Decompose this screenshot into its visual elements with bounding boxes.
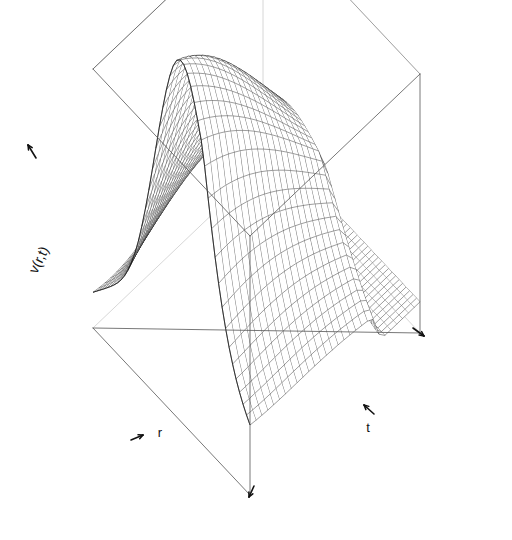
x-axis-label: r xyxy=(158,425,163,440)
figure-caption xyxy=(0,531,512,540)
figure-stage: v(r,t) r t xyxy=(0,0,512,540)
y-axis-label: t xyxy=(366,420,370,435)
z-axis-label: v(r,t) xyxy=(25,244,52,276)
surface-mesh xyxy=(93,55,420,425)
surface-plot: v(r,t) r t xyxy=(0,0,512,540)
